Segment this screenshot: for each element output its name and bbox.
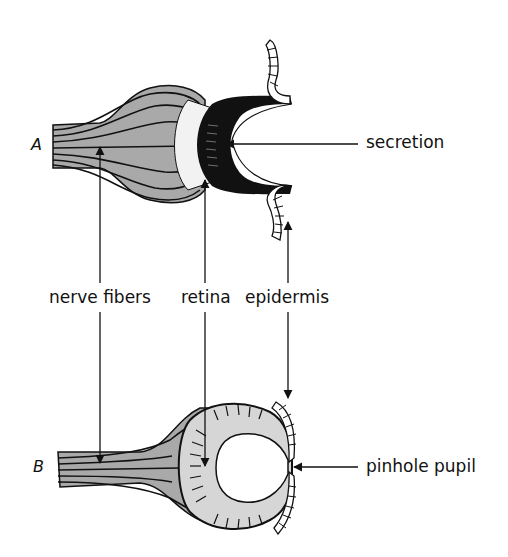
label-secretion: secretion	[366, 134, 444, 151]
part-label-a: A	[31, 137, 42, 153]
label-nerve-fibers: nerve fibers	[49, 289, 151, 306]
pinhole-eye-b	[58, 402, 296, 534]
secretion-chamber-a	[232, 104, 292, 186]
part-label-b: B	[33, 459, 44, 475]
label-pinhole-pupil: pinhole pupil	[366, 458, 476, 475]
eye-cup-a	[53, 40, 292, 240]
label-retina: retina	[181, 289, 231, 306]
label-epidermis: epidermis	[245, 289, 329, 306]
